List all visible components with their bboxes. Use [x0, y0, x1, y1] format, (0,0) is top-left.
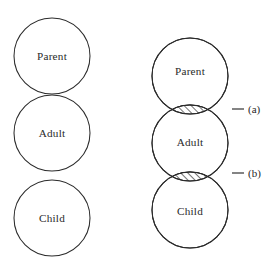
- left-panel-tangent-circles: Parent Adult Child: [14, 18, 90, 256]
- right-parent-label: Parent: [175, 65, 206, 77]
- right-child-label: Child: [177, 205, 203, 217]
- left-child-label: Child: [39, 212, 65, 224]
- right-adult-label: Adult: [177, 136, 204, 148]
- ego-states-diagram: Parent Adult Child: [0, 0, 271, 272]
- figure-container: Parent Adult Child: [0, 0, 271, 272]
- right-panel-overlapping-circles: Parent Adult Child: [152, 38, 228, 248]
- left-adult-label: Adult: [39, 127, 66, 139]
- left-parent-label: Parent: [37, 50, 68, 62]
- callout-a-label: (a): [248, 103, 261, 116]
- callout-b-label: (b): [248, 167, 261, 180]
